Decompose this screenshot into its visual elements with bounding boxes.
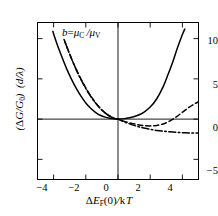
y-tick-label: 10 [192, 36, 218, 47]
x-axis-label: ΔEF(0)/k T [0, 194, 218, 208]
y-tick-label: −5 [192, 166, 218, 177]
x-tick-label: −4 [29, 183, 55, 194]
x-tick-label: 4 [157, 183, 183, 194]
y-axis-label: (ΔG/G0) (d/λ) [13, 19, 27, 179]
series-solid [53, 29, 185, 119]
y-tick-label: 5 [192, 80, 218, 91]
series-dashed [64, 39, 198, 125]
figure-panel: 10 5 0 −5 −4 −2 0 2 4 b=μC /μV ΔEF(0)/k … [0, 0, 218, 216]
x-tick-label: −2 [61, 183, 87, 194]
annotation-b-ratio: b=μC /μV [62, 26, 100, 40]
x-tick-label: 0 [93, 183, 119, 194]
x-tick-label: 2 [125, 183, 151, 194]
y-tick-label: 0 [192, 123, 218, 134]
